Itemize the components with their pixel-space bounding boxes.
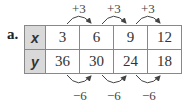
arc-arrow-bottom: [67, 75, 91, 83]
arc-arrow-bottom: [102, 75, 126, 83]
arc-arrow-bottom: [136, 75, 160, 83]
arc-arrow-top: [102, 16, 126, 24]
top-diff-label: +3: [72, 1, 86, 16]
top-diff-label: +3: [107, 1, 121, 16]
top-diff-label: +3: [141, 1, 155, 16]
bottom-diff-label: −6: [73, 88, 87, 103]
difference-arrows: +3 +3 +3 −6 −6 −6: [0, 0, 186, 107]
arc-arrow-top: [67, 16, 91, 24]
bottom-diff-label: −6: [107, 88, 121, 103]
arc-arrow-top: [136, 16, 160, 24]
bottom-diff-label: −6: [142, 88, 156, 103]
